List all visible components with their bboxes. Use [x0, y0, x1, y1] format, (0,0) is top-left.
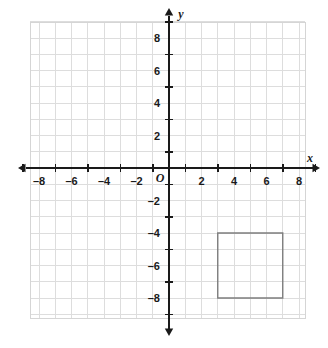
origin-label: O — [156, 171, 165, 185]
y-tick-label: 6 — [154, 65, 160, 77]
x-tick-label: 2 — [198, 175, 204, 187]
coordinate-plane-figure: –8–6–4–224688642–2–4–6–8 x y O — [0, 0, 328, 348]
y-tick-label: –4 — [148, 227, 161, 239]
x-tick-label: 8 — [296, 175, 302, 187]
x-tick-label: 4 — [231, 175, 238, 187]
x-tick-label: –6 — [65, 175, 77, 187]
x-tick-label: –8 — [33, 175, 45, 187]
y-tick-label: 8 — [154, 32, 160, 44]
y-axis-label: y — [176, 7, 184, 21]
y-tick-label: –2 — [148, 195, 160, 207]
y-tick-label: 4 — [154, 97, 161, 109]
y-tick-label: –8 — [148, 292, 160, 304]
x-tick-label: –2 — [130, 175, 142, 187]
y-tick-label: –6 — [148, 260, 160, 272]
x-tick-label: –4 — [98, 175, 111, 187]
coordinate-plane-svg: –8–6–4–224688642–2–4–6–8 x y O — [0, 0, 328, 348]
x-tick-label: 6 — [263, 175, 269, 187]
x-axis-label: x — [306, 151, 313, 165]
y-tick-label: 2 — [154, 130, 160, 142]
